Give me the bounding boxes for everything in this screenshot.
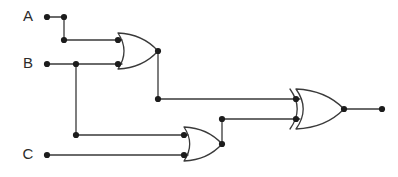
dot-xor-input-top — [293, 96, 299, 102]
dot-input-a-corner — [61, 14, 67, 20]
wire-or2-output-to-xor-bottom — [222, 119, 296, 144]
input-label-b: B — [23, 54, 33, 71]
dot-or1-output — [155, 48, 161, 54]
dot-xor-input-bottom — [293, 116, 299, 122]
dot-xor-output — [341, 106, 347, 112]
xor-gate-1[interactable] — [290, 89, 344, 129]
input-label-a: A — [23, 7, 33, 24]
xor-gate-1-body — [296, 89, 344, 129]
dot-input-b-terminal — [44, 61, 50, 67]
wire-or1-output-to-xor-top — [158, 51, 296, 99]
input-label-c: C — [23, 145, 34, 162]
dot-output-terminal — [379, 106, 385, 112]
dot-or1-input-top — [115, 37, 121, 43]
dot-input-a-elbow — [61, 37, 67, 43]
dot-input-b-junction — [73, 61, 79, 67]
or-gate-1[interactable] — [118, 33, 158, 69]
circuit-svg-canvas: ABC — [0, 0, 398, 177]
dot-input-b-branch-elbow — [73, 132, 79, 138]
gate-layer — [118, 33, 344, 161]
wire-input-a-to-or1 — [47, 17, 118, 40]
logic-circuit-diagram: ABC — [0, 0, 398, 177]
dot-or2-input-bottom — [181, 152, 187, 158]
dot-or2-output — [219, 141, 225, 147]
or-gate-2[interactable] — [184, 127, 222, 161]
dot-input-a-terminal — [44, 14, 50, 20]
dot-or1-input-bottom — [115, 61, 121, 67]
wire-layer — [47, 17, 382, 155]
xor-gate-1-xor-arc — [290, 89, 297, 129]
dot-input-c-terminal — [44, 152, 50, 158]
or-gate-2-body — [184, 127, 222, 161]
or-gate-1-body — [118, 33, 158, 69]
label-layer: ABC — [23, 7, 34, 162]
dot-or2-output-elbow — [219, 116, 225, 122]
dot-or1-output-elbow — [155, 96, 161, 102]
dot-or2-input-top — [181, 132, 187, 138]
